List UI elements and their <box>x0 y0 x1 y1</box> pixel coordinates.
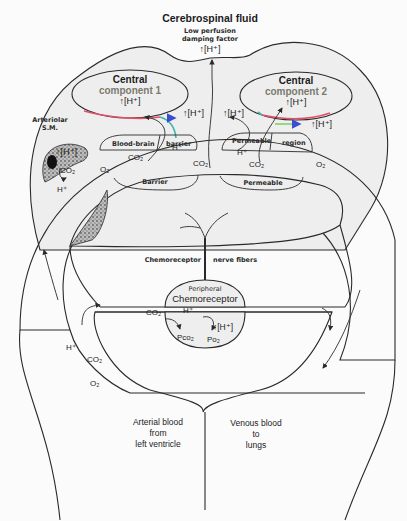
barrier-blood-brain: Blood-brain <box>112 140 155 148</box>
csf-note-h-ion: ↑[H⁺] <box>199 44 220 54</box>
peripheral-co2: CO₂ <box>146 308 161 317</box>
arterial-line2: from <box>150 428 167 438</box>
arteriolar-h-ion: ↑[H⁺] <box>56 147 77 157</box>
vessel-co2-perm: CO₂ <box>249 160 264 169</box>
left-channel-h: H⁺ <box>66 343 76 352</box>
left-channel-o2: O₂ <box>90 379 99 388</box>
arteriolar-line1: Arteriolar <box>32 116 68 124</box>
cc2-left-h-ion: ↑[H⁺] <box>223 108 244 118</box>
cc1-h-ion: ↑[H⁺] <box>119 96 140 106</box>
venous-line1: Venous blood <box>230 418 282 428</box>
peripheral-h: H⁺ <box>183 306 193 315</box>
vessel-o2-left: O₂ <box>100 165 109 174</box>
lower-permeable-label: Permeable <box>243 179 283 187</box>
cc1-line2: component 1 <box>99 85 162 96</box>
cc2-h-ion: ↑[H⁺] <box>285 97 306 107</box>
vessel-o2-right: O₂ <box>316 160 325 169</box>
arteriolar-co2: CO₂ <box>60 166 75 175</box>
barrier-permeable: Permeable <box>232 137 272 145</box>
csf-note-line2: damping factor <box>182 35 239 43</box>
left-channel-co2: CO₂ <box>87 355 102 364</box>
csf-title: Cerebrospinal fluid <box>162 12 258 24</box>
arteriolar-line2: S.M. <box>42 124 58 132</box>
cc2-outflow-h-ion: ↑[H⁺] <box>311 119 332 129</box>
cc2-line2: component 2 <box>265 86 328 97</box>
csf-note-line1: Low perfusion <box>184 27 236 35</box>
peripheral-line1: Peripheral <box>189 285 222 293</box>
physiology-diagram: Cerebrospinal fluid Low perfusion dampin… <box>0 0 407 521</box>
peripheral-po2: Po₂ <box>207 335 220 344</box>
venous-line3: lungs <box>246 440 266 450</box>
vessel-h-left-lower: H⁺ <box>57 185 67 194</box>
nerve-label-left: Chemoreceptor <box>145 256 202 264</box>
vessel-h-bbb: H⁺ <box>172 143 182 152</box>
outer-vessel <box>20 330 395 520</box>
lower-barrier-label: Barrier <box>142 178 168 186</box>
arterial-line3: left ventricle <box>135 439 181 449</box>
peripheral-line2: Chemoreceptor <box>172 293 237 304</box>
cc2-line1: Central <box>279 75 314 86</box>
arterial-line1: Arterial blood <box>133 417 183 427</box>
cc1-outflow-h-ion: ↑[H⁺] <box>183 108 204 118</box>
peripheral-h-ion: ↑[H⁺] <box>213 322 233 332</box>
venous-line2: to <box>252 429 259 439</box>
nerve-label-right: nerve fibers <box>213 256 257 264</box>
vessel-co2-bbb: CO₂ <box>128 153 143 162</box>
barrier-region: region <box>282 139 306 147</box>
vessel-co2-center: CO₂ <box>193 159 208 168</box>
vessel-h-perm: H⁺ <box>237 148 247 157</box>
peripheral-pco2: Pco₂ <box>177 333 194 342</box>
cc1-line1: Central <box>113 74 148 85</box>
